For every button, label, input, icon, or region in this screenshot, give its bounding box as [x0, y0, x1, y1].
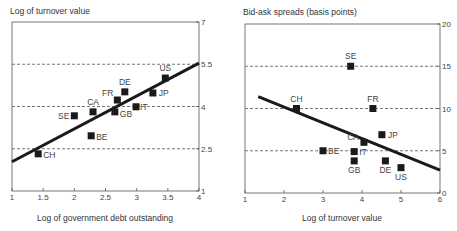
y-tick-label: 10	[442, 105, 451, 114]
point-label: FR	[102, 88, 113, 98]
data-point-fr	[114, 97, 121, 104]
y-tick-label: 15	[442, 62, 451, 71]
x-tick-label: 2.5	[100, 193, 112, 202]
point-label: DE	[379, 165, 391, 175]
data-point-jp	[149, 89, 156, 96]
point-label: CA	[87, 97, 99, 107]
point-label: SE	[58, 111, 70, 121]
x-tick-label: 1	[243, 195, 248, 204]
x-tick-label: 4	[360, 195, 365, 204]
point-label: JP	[388, 130, 398, 140]
point-label: CA	[347, 132, 359, 142]
point-label: US	[395, 172, 407, 182]
point-label: US	[159, 63, 171, 73]
left-scatter-plot: 11.522.533.5412.545.57USJPDEFRITCAGBSEBE…	[10, 18, 213, 202]
left-chart-title: Log of turnover value	[10, 6, 90, 16]
point-label: GB	[120, 109, 133, 119]
data-point-ca	[360, 139, 367, 146]
data-point-se	[347, 63, 354, 70]
data-point-ca	[90, 108, 97, 115]
y-tick-label: 4	[201, 103, 206, 112]
y-tick-label: 5.5	[201, 60, 213, 69]
right-chart-xlabel: Log of turnover value	[302, 213, 382, 223]
point-label: IT	[359, 147, 367, 157]
y-tick-label: 1	[201, 187, 206, 196]
point-label: DE	[119, 77, 131, 87]
point-label: FR	[367, 94, 378, 104]
data-point-se	[71, 112, 78, 119]
regression-line	[12, 63, 199, 162]
y-tick-label: 5	[442, 147, 447, 156]
x-tick-label: 5	[399, 195, 404, 204]
point-label: GB	[348, 165, 361, 175]
x-tick-label: 3	[321, 195, 326, 204]
data-point-de	[121, 88, 128, 95]
point-label: BE	[96, 132, 108, 142]
data-point-us	[162, 75, 169, 82]
data-point-it	[351, 148, 358, 155]
y-tick-label: 20	[442, 20, 451, 29]
data-point-be	[320, 147, 327, 154]
y-tick-label: 0	[442, 189, 447, 198]
right-scatter-plot: 12345605101520SECHFRJPCABEITGBDEUS	[243, 20, 452, 204]
right-chart-title: Bid-ask spreads (basis points)	[243, 7, 357, 17]
data-point-gb	[111, 108, 118, 115]
data-point-be	[88, 132, 95, 139]
x-tick-label: 2	[72, 193, 77, 202]
data-point-us	[398, 164, 405, 171]
data-point-jp	[378, 131, 385, 138]
chart-canvas: Log of turnover value Bid-ask spreads (b…	[0, 0, 457, 231]
point-label: IT	[140, 102, 148, 112]
point-label: CH	[43, 150, 55, 160]
data-point-ch	[35, 150, 42, 157]
plot-frame	[12, 22, 199, 191]
left-chart-xlabel: Log of government debt outstanding	[37, 213, 173, 223]
x-tick-label: 1	[10, 193, 15, 202]
point-label: CH	[290, 94, 302, 104]
data-point-it	[133, 103, 140, 110]
x-tick-label: 2	[282, 195, 287, 204]
point-label: JP	[159, 88, 169, 98]
data-point-gb	[351, 157, 358, 164]
x-tick-label: 1.5	[38, 193, 50, 202]
point-label: SE	[345, 51, 357, 61]
data-point-de	[382, 157, 389, 164]
data-point-fr	[369, 105, 376, 112]
x-tick-label: 3	[134, 193, 139, 202]
y-tick-label: 2.5	[201, 145, 213, 154]
data-point-ch	[293, 105, 300, 112]
y-tick-label: 7	[201, 18, 206, 27]
point-label: BE	[328, 146, 340, 156]
x-tick-label: 3.5	[162, 193, 174, 202]
